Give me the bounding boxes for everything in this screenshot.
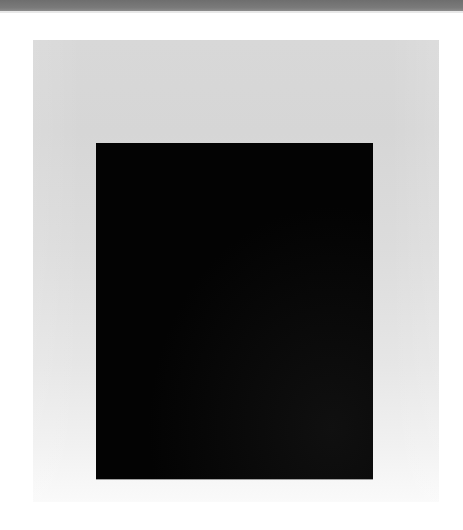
black-panel bbox=[96, 143, 373, 479]
top-dark-strip bbox=[0, 0, 463, 11]
